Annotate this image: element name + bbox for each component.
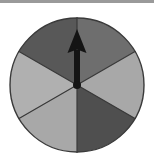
arrow-shaft — [74, 50, 80, 85]
spinner-wheel-graphic[interactable] — [0, 0, 154, 155]
spinner-figure — [0, 0, 154, 155]
arrow-pivot — [73, 81, 81, 89]
